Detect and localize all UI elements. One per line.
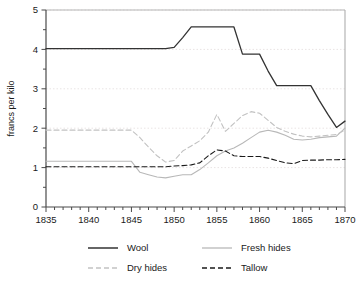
y-tick-label: 1 [33,162,38,173]
x-tick-label: 1860 [249,214,270,225]
line-chart: 012345 18351840184518501855186018651870 … [0,0,359,282]
x-tick-label: 1865 [292,214,313,225]
x-axis-tick-labels: 18351840184518501855186018651870 [35,214,355,225]
x-tick-label: 1870 [334,214,355,225]
y-tick-label: 4 [33,44,38,55]
x-tick-label: 1855 [206,214,227,225]
x-tick-label: 1840 [78,214,99,225]
x-tick-label: 1850 [164,214,185,225]
y-tick-label: 3 [33,83,38,94]
x-tick-label: 1835 [35,214,56,225]
legend-item-fresh-hides: Fresh hides [202,242,291,253]
legend-item-tallow: Tallow [202,262,268,273]
y-axis-tick-labels: 012345 [33,4,38,212]
y-axis-title: francs per kilo [6,80,16,136]
y-axis-title-text: francs per kilo [6,80,16,136]
chart-container: 012345 18351840184518501855186018651870 … [0,0,359,282]
series-line-tallow [46,150,345,167]
legend-item-wool: Wool [88,242,148,253]
y-tick-label: 2 [33,123,38,134]
chart-legend: WoolFresh hidesDry hidesTallow [88,242,291,273]
data-series [46,27,345,178]
axis-ticks [42,10,346,212]
y-tick-label: 5 [33,4,38,15]
x-tick-label: 1845 [121,214,142,225]
axes [46,10,345,207]
legend-label-dry-hides: Dry hides [127,262,167,273]
legend-label-tallow: Tallow [241,262,268,273]
series-line-wool [46,27,345,127]
legend-item-dry-hides: Dry hides [88,262,167,273]
legend-label-wool: Wool [127,242,148,253]
series-line-dry-hides [46,112,345,162]
legend-label-fresh-hides: Fresh hides [241,242,291,253]
y-tick-label: 0 [33,201,38,212]
